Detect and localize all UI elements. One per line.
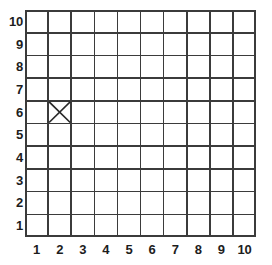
grid-marker-x[interactable]	[50, 102, 70, 122]
x-tick-label-5: 5	[117, 243, 141, 256]
x-tick-label-2: 2	[48, 243, 72, 256]
x-tick-label-10: 10	[232, 243, 256, 256]
y-tick-label-9: 9	[1, 38, 23, 51]
grid-plot-area[interactable]	[25, 10, 256, 237]
x-tick-label-3: 3	[71, 243, 95, 256]
grid-lines-svg	[25, 10, 256, 237]
y-tick-label-6: 6	[1, 106, 23, 119]
x-tick-label-6: 6	[140, 243, 164, 256]
x-tick-label-1: 1	[25, 243, 49, 256]
y-tick-label-10: 10	[1, 15, 23, 28]
y-tick-label-7: 7	[1, 83, 23, 96]
y-tick-label-5: 5	[1, 128, 23, 141]
grid-markers-group	[50, 102, 70, 122]
coordinate-grid-figure: 12345678910 10987654321	[0, 0, 272, 265]
x-tick-label-8: 8	[186, 243, 210, 256]
grid-lines-group	[25, 10, 256, 237]
y-tick-label-3: 3	[1, 174, 23, 187]
y-tick-label-2: 2	[1, 196, 23, 209]
x-tick-label-9: 9	[209, 243, 233, 256]
x-tick-label-4: 4	[94, 243, 118, 256]
x-tick-label-7: 7	[163, 243, 187, 256]
y-tick-label-8: 8	[1, 60, 23, 73]
y-tick-label-1: 1	[1, 219, 23, 232]
y-tick-label-4: 4	[1, 151, 23, 164]
